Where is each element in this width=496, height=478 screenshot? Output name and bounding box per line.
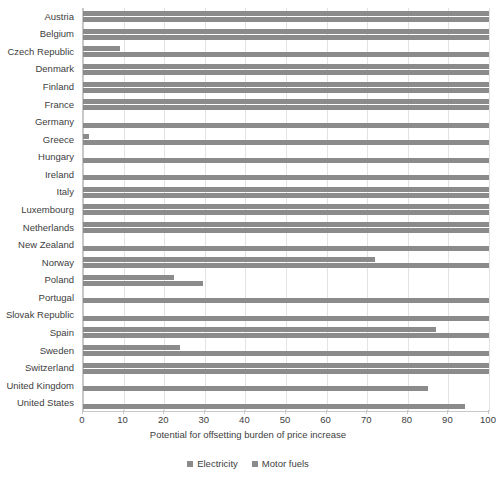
y-axis-label: Belgium (40, 29, 74, 39)
bar-electricity (83, 11, 489, 16)
bar-motor-fuels (83, 193, 489, 198)
bar-electricity (83, 204, 489, 209)
x-axis-title: Potential for offsetting burden of price… (0, 429, 496, 440)
bar-electricity (83, 327, 436, 332)
bar-rows (83, 8, 488, 412)
y-axis-label: Italy (57, 187, 74, 197)
x-tick-label: 100 (480, 414, 496, 425)
bar-row (83, 289, 488, 307)
x-tick-label: 80 (402, 414, 413, 425)
x-axis-ticks: 0102030405060708090100 (82, 414, 488, 428)
y-axis-label: United States (17, 398, 74, 408)
y-axis-label: Ireland (45, 170, 74, 180)
bar-motor-fuels (83, 105, 489, 110)
bar-row (83, 61, 488, 79)
bar-motor-fuels (83, 281, 203, 286)
bar-row (83, 166, 488, 184)
legend-swatch-icon (252, 461, 258, 467)
x-tick-label: 20 (158, 414, 169, 425)
bar-electricity (83, 64, 489, 69)
bar-motor-fuels (83, 210, 489, 215)
legend-item[interactable]: Electricity (187, 458, 238, 469)
bar-row (83, 78, 488, 96)
y-axis-label: Spain (50, 328, 74, 338)
bar-motor-fuels (83, 228, 489, 233)
y-axis-label: Denmark (35, 64, 74, 74)
bar-motor-fuels (83, 175, 489, 180)
bar-motor-fuels (83, 404, 465, 409)
plot-area (82, 8, 488, 412)
bar-motor-fuels (83, 246, 489, 251)
y-axis-label: Poland (44, 275, 74, 285)
bar-electricity (83, 345, 180, 350)
chart-legend: ElectricityMotor fuels (0, 458, 496, 469)
y-axis-labels: AustriaBelgiumCzech RepublicDenmarkFinla… (0, 8, 78, 412)
bar-row (83, 236, 488, 254)
bar-electricity (83, 46, 120, 51)
bar-motor-fuels (83, 263, 489, 268)
y-axis-label: United Kingdom (6, 381, 74, 391)
y-axis-label: Netherlands (23, 223, 74, 233)
y-axis-label: Greece (43, 135, 74, 145)
bar-row (83, 26, 488, 44)
x-tick-label: 30 (199, 414, 210, 425)
y-axis-label: Sweden (40, 346, 74, 356)
bar-row (83, 219, 488, 237)
bar-electricity (83, 82, 489, 87)
bar-motor-fuels (83, 52, 489, 57)
y-axis-label: New Zealand (18, 240, 74, 250)
bar-motor-fuels (83, 333, 489, 338)
bar-row (83, 377, 488, 395)
bar-motor-fuels (83, 369, 489, 374)
bar-motor-fuels (83, 88, 489, 93)
bar-motor-fuels (83, 386, 428, 391)
bar-row (83, 254, 488, 272)
y-axis-label: France (44, 100, 74, 110)
bar-electricity (83, 29, 489, 34)
x-tick-label: 70 (361, 414, 372, 425)
bar-electricity (83, 275, 174, 280)
bar-motor-fuels (83, 158, 489, 163)
bar-row (83, 149, 488, 167)
bar-motor-fuels (83, 316, 489, 321)
bar-electricity (83, 187, 489, 192)
bar-electricity (83, 363, 489, 368)
bar-electricity (83, 222, 489, 227)
bar-motor-fuels (83, 351, 489, 356)
bar-row (83, 342, 488, 360)
y-axis-label: Czech Republic (7, 47, 74, 57)
gridline (489, 8, 490, 412)
y-axis-label: Finland (43, 82, 74, 92)
x-tick-label: 50 (280, 414, 291, 425)
bar-row (83, 8, 488, 26)
x-tick-label: 90 (442, 414, 453, 425)
bar-row (83, 201, 488, 219)
bar-electricity (83, 99, 489, 104)
bar-row (83, 359, 488, 377)
bar-row (83, 307, 488, 325)
y-axis-label: Slovak Republic (6, 310, 74, 320)
legend-label: Electricity (197, 458, 238, 469)
bar-motor-fuels (83, 140, 489, 145)
y-axis-label: Austria (44, 12, 74, 22)
bar-row (83, 184, 488, 202)
bar-row (83, 96, 488, 114)
x-tick-label: 10 (117, 414, 128, 425)
horizontal-bar-chart: AustriaBelgiumCzech RepublicDenmarkFinla… (0, 0, 496, 478)
y-axis-label: Germany (35, 117, 74, 127)
bar-electricity (83, 257, 375, 262)
bar-row (83, 131, 488, 149)
x-tick-label: 40 (239, 414, 250, 425)
legend-swatch-icon (187, 461, 193, 467)
bar-motor-fuels (83, 298, 489, 303)
y-axis-label: Luxembourg (21, 205, 74, 215)
bar-motor-fuels (83, 17, 489, 22)
legend-item[interactable]: Motor fuels (252, 458, 309, 469)
legend-label: Motor fuels (262, 458, 309, 469)
bar-motor-fuels (83, 70, 489, 75)
x-tick-label: 60 (320, 414, 331, 425)
plot-wrapper (82, 8, 488, 412)
bar-electricity (83, 134, 89, 139)
bar-motor-fuels (83, 123, 489, 128)
bar-row (83, 113, 488, 131)
